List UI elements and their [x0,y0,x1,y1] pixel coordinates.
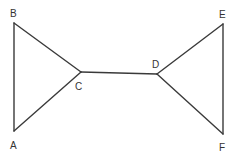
node-label-f: F [219,142,225,153]
node-label-c: C [75,81,82,92]
edge-d-e [157,24,223,74]
edge-f-d [157,74,223,134]
edge-c-a [14,72,81,131]
labels-group: ABCDEF [10,8,226,153]
edge-c-d [81,72,157,74]
edge-b-c [14,23,81,72]
node-label-b: B [10,8,17,19]
node-label-e: E [219,9,226,20]
node-label-d: D [152,59,159,70]
graph-diagram: ABCDEF [0,0,236,158]
node-label-a: A [10,140,17,151]
edges-group [14,23,223,134]
